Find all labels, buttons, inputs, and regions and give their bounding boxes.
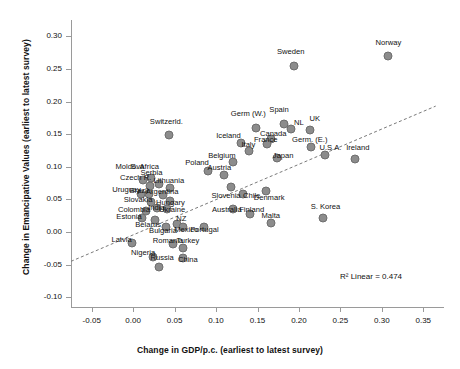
x-tick-label: 0.30 <box>362 316 402 325</box>
data-point-label: Czech R. <box>120 172 151 181</box>
data-point-label: NL <box>294 118 304 127</box>
y-tick-label: 0.10 <box>28 162 62 171</box>
y-tick-label: 0.00 <box>28 227 62 236</box>
x-tick-mark <box>340 307 341 312</box>
data-point-label: Uruguay <box>112 184 141 193</box>
data-point-label: Russia <box>151 252 174 261</box>
x-tick-label: 0.15 <box>238 316 278 325</box>
data-point <box>164 131 173 140</box>
x-tick-label: 0.05 <box>155 316 195 325</box>
data-point-label: Sweden <box>277 47 304 56</box>
x-tick-mark <box>133 307 134 312</box>
y-tick-label: 0.25 <box>28 64 62 73</box>
data-point-label: Norway <box>376 37 402 46</box>
data-point-label: China <box>178 254 198 263</box>
data-point-label: France <box>254 134 278 143</box>
data-point <box>318 213 327 222</box>
data-point-label: Slovenia <box>211 191 240 200</box>
x-tick-mark <box>423 307 424 312</box>
data-point <box>266 218 275 227</box>
x-tick-mark <box>216 307 217 312</box>
data-point <box>305 125 314 134</box>
data-point <box>351 154 360 163</box>
data-point-label: Italy <box>241 139 255 148</box>
data-point-label: Denmark <box>254 193 285 202</box>
data-point <box>384 51 393 60</box>
x-tick-mark <box>382 307 383 312</box>
data-point-label: UK <box>309 113 320 122</box>
data-point <box>289 61 298 70</box>
x-tick-label: 0.00 <box>113 316 153 325</box>
x-tick-label: 0.10 <box>196 316 236 325</box>
data-point-label: Germ (W.) <box>231 109 266 118</box>
x-tick-label: 0.25 <box>320 316 360 325</box>
data-point-label: Spain <box>269 105 288 114</box>
y-tick-label: 0.15 <box>28 129 62 138</box>
data-point-label: Belgium <box>208 151 235 160</box>
r-squared-annotation: R² Linear = 0.474 <box>340 272 402 281</box>
x-axis-title: Change in GDP/p.c. (earliest to latest s… <box>0 345 460 355</box>
data-point-label: Turkey <box>176 236 199 245</box>
y-tick-label: 0.05 <box>28 194 62 203</box>
data-point-label: Australia <box>212 205 242 214</box>
x-tick-mark <box>258 307 259 312</box>
x-tick-mark <box>175 307 176 312</box>
data-point-label: Switzerld. <box>150 117 183 126</box>
data-point-label: Portugal <box>190 225 218 234</box>
data-point-label: Finland <box>239 205 264 214</box>
data-point-label: Ireland <box>346 143 369 152</box>
data-point-label: Austria <box>208 163 232 172</box>
data-point-label: Bulgaria <box>149 226 177 235</box>
data-point-label: Latvia <box>111 235 131 244</box>
y-tick-label: -0.05 <box>28 260 62 269</box>
plot-area: NorwaySwedenSpainNLUKGerm (W.)CanadaFran… <box>71 20 444 307</box>
y-tick-label: 0.30 <box>28 31 62 40</box>
data-point-label: U.S.A. <box>319 143 341 152</box>
x-tick-label: 0.20 <box>279 316 319 325</box>
x-tick-mark <box>299 307 300 312</box>
data-point-label: Iceland <box>216 130 241 139</box>
y-tick-label: 0.20 <box>28 97 62 106</box>
data-point <box>320 151 329 160</box>
data-point-label: Japan <box>273 151 294 160</box>
y-tick-label: -0.10 <box>28 292 62 301</box>
data-point-label: S. Korea <box>311 201 341 210</box>
data-point <box>154 262 163 271</box>
x-tick-label: 0.35 <box>403 316 443 325</box>
data-point-label: Malta <box>261 211 280 220</box>
data-point-label: Poland <box>185 158 209 167</box>
data-point-label: Ukraine <box>159 205 185 214</box>
data-point-label: Lithuania <box>153 175 184 184</box>
x-tick-mark <box>92 307 93 312</box>
x-tick-label: -0.05 <box>72 316 112 325</box>
scatter-chart: Change in Emancipative Values (earliest … <box>0 0 460 369</box>
data-point-label: NZ <box>176 214 186 223</box>
